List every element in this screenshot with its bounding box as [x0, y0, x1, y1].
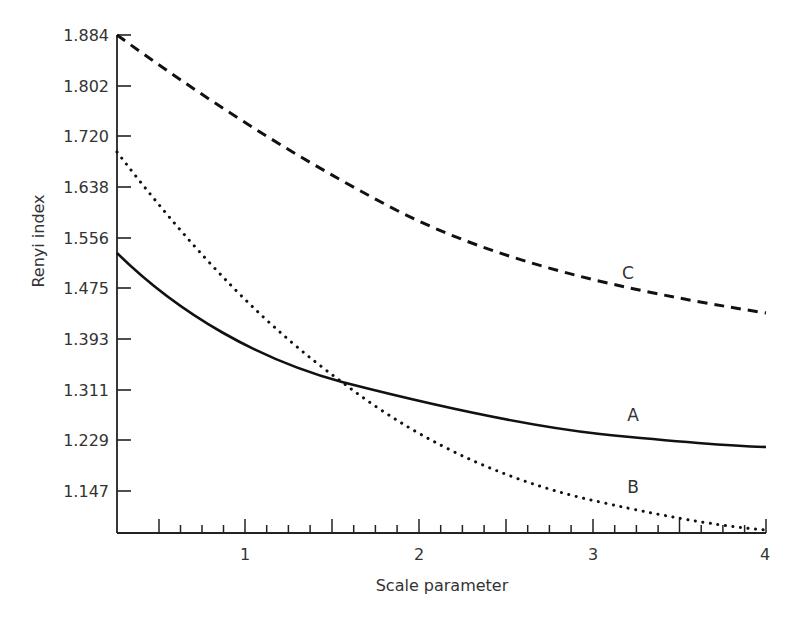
y-tick-label: 1.147 — [63, 482, 109, 501]
curve-c-label: C — [622, 263, 634, 283]
chart-canvas: 1.884 1.802 1.720 1.638 1.556 1.475 1.39… — [0, 0, 792, 623]
x-tick-labels: 1 2 3 4 — [240, 545, 770, 564]
x-tick-label: 1 — [240, 545, 250, 564]
curve-a-label: A — [627, 405, 639, 425]
y-tick-label: 1.802 — [63, 77, 109, 96]
curve-c — [117, 35, 766, 313]
y-tick-label: 1.638 — [63, 178, 109, 197]
y-tick-label: 1.720 — [63, 127, 109, 146]
y-axis-title: Renyi index — [29, 194, 48, 287]
curve-b-label: B — [627, 477, 639, 497]
x-axis-title: Scale parameter — [376, 576, 509, 595]
curve-b — [117, 152, 766, 530]
x-tick-label: 3 — [588, 545, 598, 564]
x-ticks — [159, 519, 766, 533]
curve-a — [117, 253, 766, 447]
y-tick-labels: 1.884 1.802 1.720 1.638 1.556 1.475 1.39… — [63, 26, 109, 501]
y-tick-label: 1.475 — [63, 279, 109, 298]
y-tick-label: 1.393 — [63, 330, 109, 349]
y-tick-label: 1.229 — [63, 431, 109, 450]
y-tick-label: 1.556 — [63, 229, 109, 248]
y-tick-label: 1.311 — [63, 381, 109, 400]
y-tick-label: 1.884 — [63, 26, 109, 45]
x-tick-label: 2 — [414, 545, 424, 564]
x-tick-label: 4 — [760, 545, 770, 564]
